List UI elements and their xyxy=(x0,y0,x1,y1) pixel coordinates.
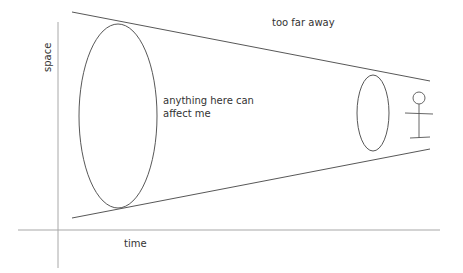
near-region-label-line1: anything here can xyxy=(163,95,254,106)
space-axis-label: space xyxy=(42,43,53,72)
near-region-label-line2: affect me xyxy=(163,108,211,119)
too-far-away-label: too far away xyxy=(272,17,335,28)
time-axis-label: time xyxy=(124,238,147,249)
stick-figure-icon xyxy=(405,92,433,138)
cone-bottom-boundary xyxy=(72,149,430,218)
near-region-ellipse xyxy=(79,24,157,208)
far-region-ellipse xyxy=(357,75,389,151)
light-cone-diagram: too far away anything here can affect me… xyxy=(0,0,463,273)
cone-top-boundary xyxy=(72,12,430,81)
